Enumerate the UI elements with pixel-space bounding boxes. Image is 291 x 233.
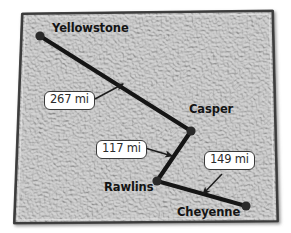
map-figure: Yellowstone Casper Rawlins Cheyenne 267 … xyxy=(0,0,291,233)
city-label-casper: Casper xyxy=(189,104,233,116)
city-label-rawlins: Rawlins xyxy=(104,182,153,194)
city-dot-yellowstone[interactable] xyxy=(35,31,44,40)
city-label-cheyenne: Cheyenne xyxy=(177,207,240,219)
distance-label-casper-rawlins: 117 mi xyxy=(96,140,147,159)
city-dot-rawlins[interactable] xyxy=(152,176,161,185)
distance-label-yellowstone-casper: 267 mi xyxy=(44,91,95,110)
city-dot-casper[interactable] xyxy=(186,126,195,135)
city-label-yellowstone: Yellowstone xyxy=(52,23,129,35)
map-graphic xyxy=(0,0,291,233)
distance-label-rawlins-cheyenne: 149 mi xyxy=(204,151,255,170)
city-dot-cheyenne[interactable] xyxy=(241,201,250,210)
